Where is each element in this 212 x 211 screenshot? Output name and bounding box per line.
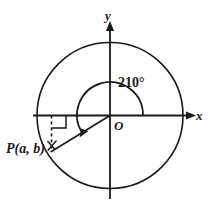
point-p-label: P(a, b) (6, 142, 45, 156)
origin-label: O (114, 119, 123, 132)
x-axis-arrowhead-icon (186, 111, 196, 119)
x-axis-label: x (196, 109, 203, 122)
y-axis-label: y (105, 9, 111, 22)
right-angle-marker-icon (52, 116, 67, 129)
angle-measure-label: 210° (118, 76, 145, 90)
terminal-ray (51, 116, 110, 153)
point-p-text: P(a, b) (6, 141, 45, 156)
angle-diagram-figure: y x O 210° P(a, b) (0, 0, 212, 211)
figure-canvas (0, 0, 212, 211)
